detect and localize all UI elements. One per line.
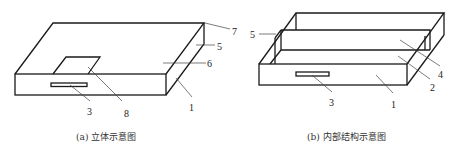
- caption-b: (b) 内部结构示意图: [307, 130, 386, 143]
- diagram-figure: 3 8 1 5 6 7 3 1 2 4 5 (: [0, 0, 452, 153]
- leader-1: [176, 78, 192, 97]
- divider-top-edge: [281, 30, 430, 50]
- box-internal-view: 3 1 2 4 5: [250, 13, 444, 110]
- leader-7: [205, 23, 230, 29]
- label-8: 8: [124, 108, 129, 119]
- leader-b1: [376, 75, 393, 93]
- tray-front-panel: [259, 64, 407, 85]
- label-6: 6: [207, 58, 212, 69]
- box-top-face: [15, 23, 204, 74]
- leader-b3: [312, 75, 332, 92]
- label-b4: 4: [438, 69, 443, 80]
- caption-a: (a) 立体示意图: [76, 130, 136, 143]
- box-front-face: [15, 74, 166, 95]
- label-b1: 1: [391, 99, 396, 110]
- label-7: 7: [232, 26, 237, 37]
- label-b5: 5: [250, 29, 255, 40]
- label-3: 3: [87, 106, 92, 117]
- box-3d-view: 3 8 1 5 6 7: [15, 23, 237, 119]
- label-1: 1: [189, 102, 194, 113]
- leader-8: [88, 67, 122, 101]
- box-right-face: [166, 23, 204, 95]
- lid-opening: [53, 57, 100, 74]
- leader-3: [70, 85, 90, 101]
- tray-outer-rim: [259, 13, 444, 64]
- label-b2: 2: [430, 82, 435, 93]
- label-5: 5: [217, 41, 222, 52]
- label-b3: 3: [329, 97, 334, 108]
- handle-slot: [51, 83, 87, 87]
